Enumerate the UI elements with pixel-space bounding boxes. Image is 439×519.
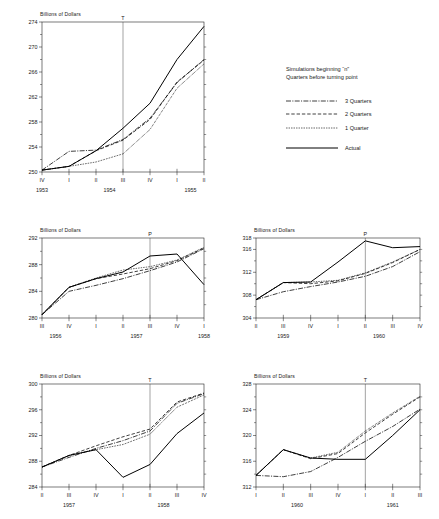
y-tick-label: 304 (243, 315, 252, 321)
legend-entry: Actual (286, 142, 436, 156)
x-year-label: 1961 (387, 502, 399, 508)
y-tick-label: 292 (29, 235, 38, 241)
x-year-label: 1953 (36, 187, 48, 193)
x-quarter-label: III (418, 492, 423, 498)
y-tick-label: 280 (29, 315, 38, 321)
series-line-2-quarters (256, 397, 420, 476)
y-axis-title: Billions of Dollars (254, 373, 295, 379)
y-axis-title: Billions of Dollars (40, 11, 81, 17)
legend-entry: 1 Quarter (286, 121, 436, 135)
x-quarter-label: II (41, 492, 44, 498)
x-quarter-label: II (122, 323, 125, 329)
y-tick-label: 292 (29, 432, 38, 438)
y-tick-label: 318 (243, 235, 252, 241)
y-axis-title: Billions of Dollars (254, 227, 295, 233)
x-quarter-label: I (255, 492, 257, 498)
x-quarter-label: II (255, 323, 258, 329)
series-line-actual (42, 413, 204, 477)
x-quarter-label: II (282, 492, 285, 498)
x-quarter-label: III (40, 323, 45, 329)
x-quarter-label: IV (174, 323, 179, 329)
y-tick-label: 250 (29, 169, 38, 175)
plot-frame (42, 384, 204, 487)
x-year-label: 1958 (158, 502, 170, 508)
chart-panel-1953-1955: Billions of Dollars250254258262266270274… (18, 6, 208, 198)
chart-panel-1960-1961: Billions of Dollars312316320324328IIIIII… (230, 368, 426, 513)
y-tick-label: 296 (29, 407, 38, 413)
turning-point-label: T (364, 377, 368, 383)
x-quarter-label: I (95, 323, 97, 329)
y-tick-label: 270 (29, 44, 38, 50)
x-quarter-label: II (95, 177, 98, 183)
series-line-actual (256, 241, 420, 300)
x-year-label: 1957 (63, 502, 75, 508)
y-tick-label: 328 (243, 381, 252, 387)
turning-point-label: T (148, 377, 152, 383)
x-quarter-label: III (390, 323, 395, 329)
chart-svg-panel-1960-1961: Billions of Dollars312316320324328IIIIII… (230, 368, 426, 513)
y-axis-title: Billions of Dollars (40, 227, 81, 233)
x-year-label: 1960 (373, 333, 385, 339)
series-line-actual (256, 410, 420, 476)
y-tick-label: 312 (243, 269, 252, 275)
x-quarter-label: I (203, 323, 205, 329)
x-quarter-label: II (364, 323, 367, 329)
y-tick-label: 284 (29, 288, 38, 294)
series-line-3-quarters (42, 394, 204, 467)
x-quarter-label: III (175, 492, 180, 498)
y-tick-label: 324 (243, 407, 252, 413)
x-quarter-label: III (148, 323, 153, 329)
series-line-2-quarters (42, 248, 204, 315)
legend-entry-label: Actual (345, 145, 361, 151)
x-year-label: 1955 (185, 187, 197, 193)
chart-svg-panel-1953-1955: Billions of Dollars250254258262266270274… (18, 6, 208, 198)
x-quarter-label: IV (308, 323, 313, 329)
plot-frame (256, 238, 420, 318)
x-quarter-label: III (121, 177, 126, 183)
x-year-label: 1960 (291, 502, 303, 508)
x-quarter-label: I (68, 177, 70, 183)
x-quarter-label: IV (201, 492, 206, 498)
x-quarter-label: IV (335, 492, 340, 498)
y-tick-label: 300 (29, 381, 38, 387)
x-quarter-label: I (122, 492, 124, 498)
legend-line-swatch-dash-dot (286, 98, 338, 104)
legend-line-swatch-dashed (286, 111, 338, 117)
series-line-2-quarters (42, 393, 204, 467)
y-tick-label: 320 (243, 432, 252, 438)
chart-panel-1956-1958: Billions of Dollars280284288292IIIIVIIII… (18, 222, 208, 344)
y-tick-label: 312 (243, 484, 252, 490)
x-year-label: 1954 (104, 187, 116, 193)
turning-point-label: P (364, 231, 368, 237)
x-year-label: 1959 (277, 333, 289, 339)
x-quarter-label: I (365, 492, 367, 498)
legend-heading-line1: Simulations beginning “n” (286, 66, 436, 74)
turning-point-label: T (121, 15, 125, 21)
legend-line-swatch-solid (286, 145, 338, 151)
turning-point-label: P (148, 231, 152, 237)
chart-svg-panel-1959-1960: Billions of Dollars304308312316318IIIIII… (230, 222, 426, 344)
chart-panel-1959-1960: Billions of Dollars304308312316318IIIIII… (230, 222, 426, 344)
y-axis-title: Billions of Dollars (40, 373, 81, 379)
y-tick-label: 316 (243, 246, 252, 252)
x-quarter-label: II (149, 492, 152, 498)
x-quarter-label: IV (39, 177, 44, 183)
chart-legend: Simulations beginning “n” Quarters befor… (286, 66, 436, 155)
y-tick-label: 284 (29, 484, 38, 490)
series-line-2-quarters (256, 249, 420, 299)
x-year-label: 1957 (131, 333, 143, 339)
legend-heading: Simulations beginning “n” Quarters befor… (286, 66, 436, 81)
series-line-3-quarters (42, 249, 204, 315)
legend-heading-line2: Quarters before turning point (286, 74, 436, 82)
y-tick-label: 316 (243, 458, 252, 464)
y-tick-label: 288 (29, 458, 38, 464)
x-quarter-label: III (67, 492, 72, 498)
legend-entry: 3 Quarters (286, 94, 436, 108)
legend-line-swatch-dotted (286, 125, 338, 131)
x-quarter-label: IV (93, 492, 98, 498)
y-tick-label: 274 (29, 19, 38, 25)
x-quarter-label: III (281, 323, 286, 329)
x-quarter-label: II (391, 492, 394, 498)
y-tick-label: 258 (29, 119, 38, 125)
plot-frame (42, 238, 204, 318)
